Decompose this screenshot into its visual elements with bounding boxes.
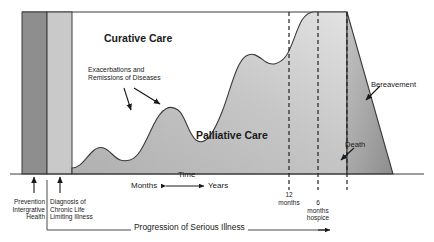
exacerbations-annotation: Exacerbations and Remissions of Diseases (88, 66, 161, 82)
palliative-care-title: Palliative Care (196, 129, 268, 141)
arrow-exacerbation-left (124, 88, 131, 110)
region-prevention-bar (22, 12, 47, 174)
region-diagnosis-bar (47, 12, 72, 174)
time-axis-label: Time (178, 170, 195, 179)
marker-label-12-months: 12 months (275, 191, 303, 206)
palliative-care-continuum-diagram: Curative Care Palliative Care Exacerbati… (0, 0, 434, 242)
arrow-exacerbation-right (134, 88, 160, 104)
bereavement-label: Bereavement (371, 81, 416, 90)
marker-label-6-months-hospice: 6 months hospice (304, 199, 332, 222)
progression-label: Progression of Serious Illness (131, 223, 248, 233)
diagnosis-label: Diagnosis of Chronic Life Limiting Illne… (50, 198, 93, 221)
curative-care-title: Curative Care (104, 32, 172, 44)
prevention-label: Prevention Intergrative Health (2, 198, 45, 221)
years-axis-label: Years (208, 181, 228, 190)
death-label: Death (345, 141, 365, 150)
months-axis-label: Months (131, 181, 157, 190)
